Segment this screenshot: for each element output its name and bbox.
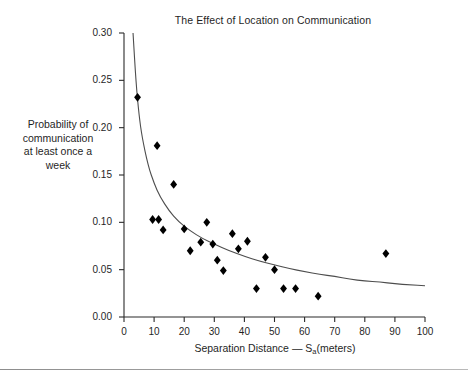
chart-figure: The Effect of Location on Communication … [0,0,468,382]
data-point [280,284,287,293]
x-tick-label-1: 10 [141,326,167,337]
data-point [203,218,210,227]
fit-curve [133,33,425,286]
axis-lines [124,33,425,317]
data-point [187,246,194,255]
data-point [181,225,188,234]
y-tick-label-3: 0.15 [80,169,112,180]
data-point [134,93,141,102]
data-point [160,226,167,235]
y-tick-label-5: 0.25 [80,74,112,85]
y-tick-label-1: 0.05 [80,264,112,275]
y-tick-label-4: 0.20 [80,122,112,133]
data-point [382,249,389,258]
data-point [253,284,260,293]
plot-area [0,0,468,382]
x-tick-label-10: 100 [412,326,438,337]
data-point [214,256,221,265]
data-point [154,141,161,150]
x-axis-ticks [124,317,425,322]
x-tick-label-8: 80 [352,326,378,337]
x-tick-label-2: 20 [171,326,197,337]
x-tick-label-7: 70 [322,326,348,337]
data-point [149,215,156,224]
data-point [262,253,269,262]
x-tick-label-4: 40 [231,326,257,337]
x-tick-label-6: 60 [292,326,318,337]
y-axis-ticks [119,33,124,317]
x-tick-label-0: 0 [111,326,137,337]
data-point [244,237,251,246]
data-point [170,180,177,189]
data-point [209,240,216,249]
y-tick-label-0: 0.00 [80,311,112,322]
x-tick-label-9: 90 [382,326,408,337]
data-point [155,215,162,224]
footer-rule [0,369,468,370]
data-point [292,284,299,293]
y-tick-label-2: 0.10 [80,216,112,227]
data-point [229,229,236,238]
y-tick-label-6: 0.30 [80,27,112,38]
x-tick-label-5: 50 [262,326,288,337]
data-point [220,266,227,275]
data-point-series [134,93,389,301]
data-point [235,244,242,253]
data-point [315,292,322,301]
data-point [271,265,278,274]
x-tick-label-3: 30 [201,326,227,337]
